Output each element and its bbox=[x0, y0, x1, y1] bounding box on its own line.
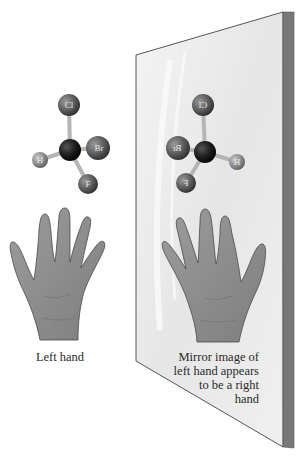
atom-br: Br bbox=[86, 136, 110, 160]
atom-f: F bbox=[78, 174, 98, 194]
svg-text:Br: Br bbox=[95, 143, 104, 153]
svg-text:Br: Br bbox=[172, 143, 181, 153]
atom-br-mirrored: Br bbox=[166, 136, 190, 160]
left-molecule: Cl Br H F bbox=[32, 94, 110, 194]
svg-text:Cl: Cl bbox=[198, 100, 207, 110]
svg-text:F: F bbox=[85, 179, 90, 189]
atom-c-mirrored bbox=[194, 141, 216, 163]
svg-text:Cl: Cl bbox=[65, 100, 74, 110]
caption-line: hand bbox=[150, 392, 259, 406]
left-hand-caption: Left hand bbox=[20, 350, 100, 364]
mirror-image-caption: Mirror image of left hand appears to be … bbox=[150, 350, 259, 406]
atom-cl: Cl bbox=[58, 94, 80, 116]
atom-c bbox=[59, 139, 81, 161]
atom-f-mirrored: F bbox=[176, 173, 196, 193]
caption-line: left hand appears bbox=[150, 364, 259, 378]
svg-text:H: H bbox=[233, 157, 240, 167]
atom-h: H bbox=[32, 152, 48, 168]
caption-line: to be a right bbox=[150, 378, 259, 392]
mirror-chirality-figure: Cl Br H F Cl bbox=[0, 0, 305, 459]
atom-cl-mirrored: Cl bbox=[192, 94, 214, 116]
svg-text:H: H bbox=[37, 155, 44, 165]
atom-h-mirrored: H bbox=[229, 154, 245, 170]
svg-text:F: F bbox=[183, 178, 188, 188]
left-hand bbox=[10, 208, 105, 340]
mirror-edge bbox=[283, 12, 294, 448]
caption-line: Mirror image of bbox=[150, 350, 259, 364]
